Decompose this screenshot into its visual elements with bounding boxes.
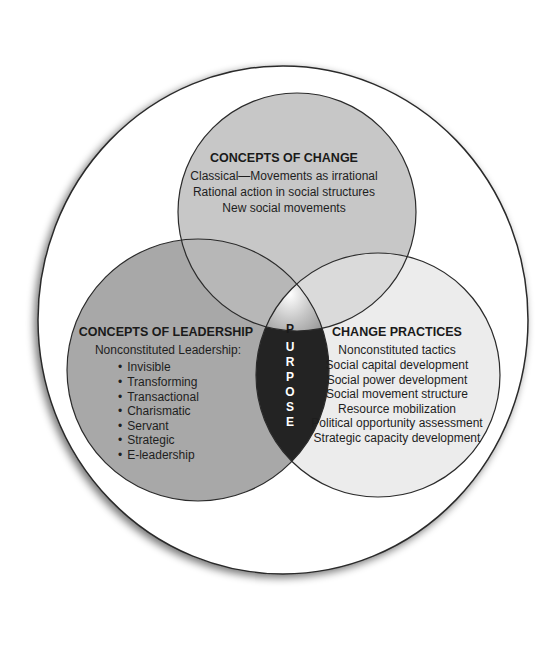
change-practice-item: Nonconstituted tactics	[338, 343, 455, 357]
leadership-item: Servant	[127, 419, 169, 433]
change-practice-item: Strategic capacity development	[314, 431, 481, 445]
change-concept-item: New social movements	[222, 201, 345, 215]
leadership-item: E-leadership	[127, 448, 195, 462]
purpose-letter: P	[286, 370, 294, 384]
change-practice-item: Social power development	[327, 373, 468, 387]
change-practice-item: Social capital development	[326, 358, 469, 372]
venn-diagram: CONCEPTS OF CHANGE Classical—Movements a…	[0, 0, 553, 651]
concepts-of-leadership-title: CONCEPTS OF LEADERSHIP	[79, 325, 253, 339]
bullet-icon: •	[118, 448, 122, 462]
leadership-subtitle: Nonconstituted Leadership:	[95, 343, 241, 357]
leadership-item: Strategic	[127, 433, 174, 447]
purpose-letter: U	[286, 340, 295, 354]
concepts-of-change-title: CONCEPTS OF CHANGE	[210, 151, 358, 165]
bullet-icon: •	[118, 419, 122, 433]
svg-text:•Strategic: •Strategic	[118, 433, 175, 447]
leadership-item: Transactional	[127, 390, 199, 404]
svg-text:•E-leadership: •E-leadership	[118, 448, 195, 462]
change-concept-item: Rational action in social structures	[193, 185, 375, 199]
purpose-letter: R	[286, 355, 295, 369]
purpose-letter: O	[285, 385, 294, 399]
bullet-icon: •	[118, 404, 122, 418]
change-practice-item: Political opportunity assessment	[311, 416, 483, 430]
bullet-icon: •	[118, 433, 122, 447]
purpose-letter: S	[286, 400, 294, 414]
leadership-item: Transforming	[127, 375, 197, 389]
bullet-icon: •	[118, 390, 122, 404]
purpose-letter: P	[286, 322, 294, 336]
purpose-letter: E	[286, 415, 294, 429]
svg-text:•Transforming: •Transforming	[118, 375, 197, 389]
change-practice-item: Social movement structure	[326, 387, 468, 401]
change-practice-item: Resource mobilization	[338, 402, 456, 416]
bullet-icon: •	[118, 375, 122, 389]
bullet-icon: •	[118, 360, 122, 374]
leadership-item: Invisible	[127, 360, 171, 374]
svg-text:•Charismatic: •Charismatic	[118, 404, 191, 418]
leadership-item: Charismatic	[127, 404, 190, 418]
change-concept-item: Classical—Movements as irrational	[190, 169, 377, 183]
change-practices-title: CHANGE PRACTICES	[332, 325, 462, 339]
svg-text:•Transactional: •Transactional	[118, 390, 199, 404]
